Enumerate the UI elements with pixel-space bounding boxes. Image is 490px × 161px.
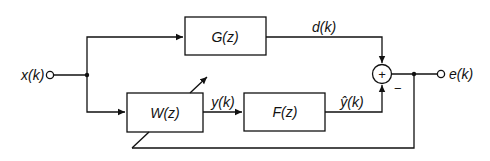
input-terminal: [46, 71, 53, 78]
path-d: [266, 37, 382, 63]
input-junction-dot: [85, 73, 89, 77]
signal-y-label: y(k): [210, 94, 234, 110]
signal-yhat-label: ŷ(k): [339, 94, 363, 110]
adaptive-arrow: [190, 77, 207, 93]
block-w-label: W(z): [150, 105, 180, 121]
signal-d-label: d(k): [312, 19, 336, 35]
block-g-label: G(z): [211, 29, 238, 45]
summer-plus-sign: +: [378, 67, 386, 82]
block-diagram: x(k) e(k) G(z) W(z) F(z) d(k) y(k) ŷ(k) …: [0, 0, 490, 161]
path-to-g: [87, 37, 183, 75]
path-to-w: [87, 75, 125, 112]
diagram-svg: x(k) e(k) G(z) W(z) F(z) d(k) y(k) ŷ(k) …: [0, 0, 490, 161]
output-label: e(k): [449, 66, 473, 82]
output-junction-dot: [412, 72, 416, 76]
adapt-tap: [132, 132, 149, 148]
block-f-label: F(z): [273, 104, 298, 120]
input-label: x(k): [20, 67, 44, 83]
minus-sign: −: [394, 81, 402, 96]
output-terminal: [437, 70, 444, 77]
